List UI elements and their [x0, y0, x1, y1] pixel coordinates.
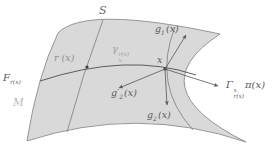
transport-label-rest: π(x): [245, 79, 265, 90]
point-r-dot: [85, 65, 88, 68]
g2-prime-label-base: g′: [111, 87, 119, 98]
point-x-label: x: [157, 55, 162, 65]
g2-prime-label-rest: (x): [124, 87, 137, 98]
diagram-canvas: [0, 0, 280, 147]
geodesic-label-sub: x: [118, 57, 129, 63]
g2-vector-label: g2(x): [147, 110, 171, 120]
g2-label-rest: (x): [158, 109, 171, 120]
transport-label-base: Γ: [226, 79, 233, 90]
geodesic-label: γr(x)x: [112, 44, 129, 63]
g2-prime-label-sub: 2: [119, 93, 123, 100]
point-r-label: r (x): [54, 53, 74, 63]
fiber-label: Fr(x): [3, 73, 21, 83]
g1-vector-label: g1(x): [155, 24, 179, 34]
g1-label-rest: (x): [166, 23, 179, 34]
g2-label-sub: 2: [153, 115, 157, 122]
transport-label-sub: r(x): [233, 93, 244, 99]
g1-label-sub: 1: [161, 29, 165, 36]
parallel-transport-label: Γxr(x)π(x): [226, 80, 265, 99]
manifold-diagram: S M Fr(x) r (x) x γr(x)x g1(x) g′2(x) g2…: [0, 0, 280, 147]
surface-label: S: [99, 5, 107, 16]
fiber-label-base: F: [3, 72, 10, 83]
fiber-label-sub: r(x): [10, 78, 21, 85]
g2-prime-vector-label: g′2(x): [111, 88, 137, 98]
manifold-label: M: [13, 97, 24, 108]
geodesic-label-base: γ: [112, 43, 118, 54]
